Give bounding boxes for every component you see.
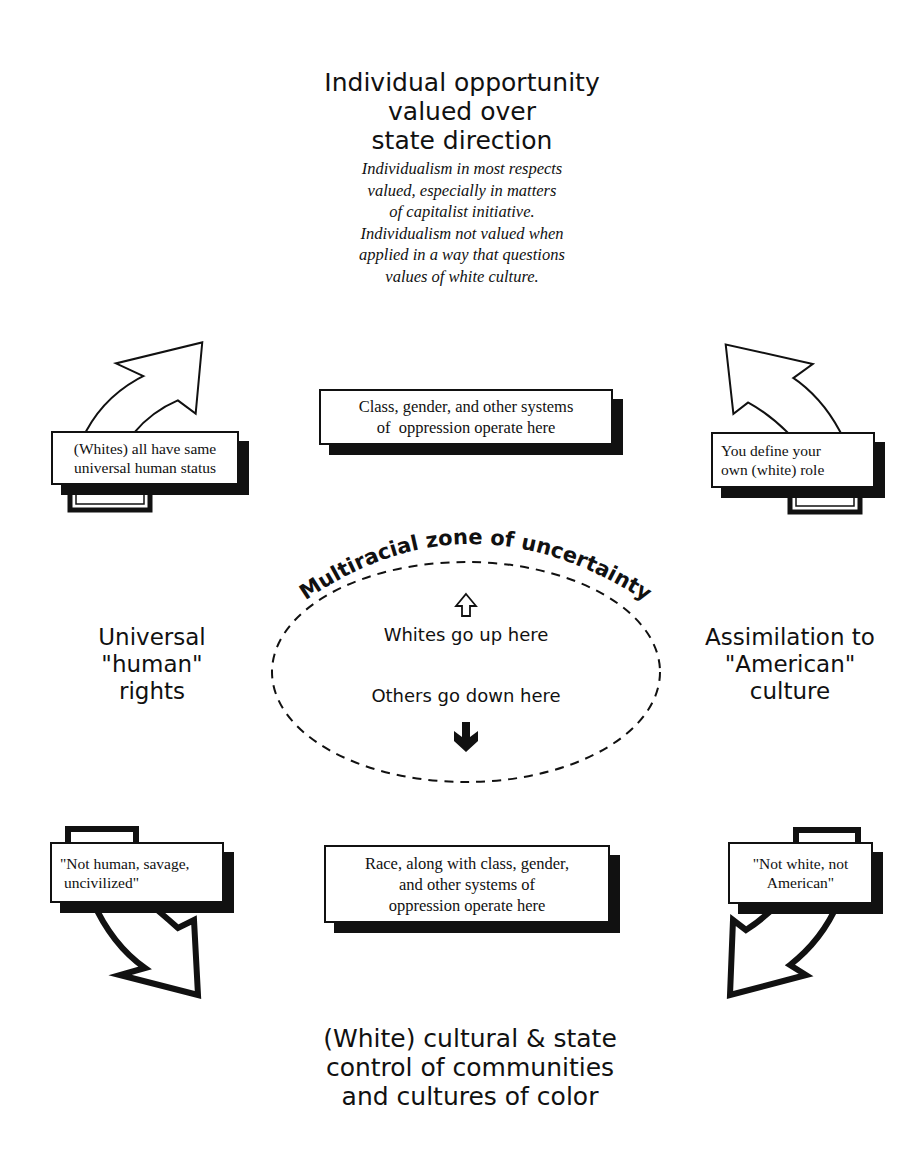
top-title-line: Individual opportunity — [262, 68, 662, 97]
box-line: American" — [753, 873, 848, 892]
box-line: universal human status — [74, 458, 216, 477]
right-label-line: Assimilation to — [680, 624, 900, 651]
zone-down-text: Others go down here — [330, 685, 602, 706]
box-line: Class, gender, and other systems — [359, 396, 574, 417]
top-description-line: valued, especially in matters — [290, 180, 634, 202]
solid-down-arrow-icon — [454, 722, 478, 752]
upper-left-box: (Whites) all have same universal human s… — [51, 431, 239, 485]
top-description-line: Individualism not valued when — [290, 223, 634, 245]
left-label: Universal "human" rights — [62, 624, 242, 705]
box-line: "Not human, savage, — [60, 854, 189, 873]
top-title-line: state direction — [262, 126, 662, 155]
left-label-line: Universal — [62, 624, 242, 651]
box-line: (Whites) all have same — [74, 439, 216, 458]
upper-right-box: You define your own (white) role — [711, 432, 875, 488]
bottom-title: (White) cultural & state control of comm… — [275, 1024, 665, 1111]
top-description-line: of capitalist initiative. — [290, 201, 634, 223]
upper-center-box: Class, gender, and other systems of oppr… — [319, 389, 613, 445]
box-line: and other systems of — [365, 874, 569, 895]
right-label: Assimilation to "American" culture — [680, 624, 900, 705]
bottom-title-line: control of communities — [275, 1053, 665, 1082]
left-label-line: rights — [62, 678, 242, 705]
left-label-line: "human" — [62, 651, 242, 678]
box-line: uncivilized" — [60, 873, 189, 892]
top-description-line: values of white culture. — [290, 266, 634, 288]
right-label-line: "American" — [680, 651, 900, 678]
lower-right-box: "Not white, not American" — [728, 842, 873, 904]
bottom-title-line: (White) cultural & state — [275, 1024, 665, 1053]
box-line: "Not white, not — [753, 854, 848, 873]
top-description-line: Individualism in most respects — [290, 158, 634, 180]
zone-up-text: Whites go up here — [340, 624, 592, 645]
top-description: Individualism in most respects valued, e… — [290, 158, 634, 287]
box-line: own (white) role — [721, 460, 824, 479]
top-title-line: valued over — [262, 97, 662, 126]
lower-left-box: "Not human, savage, uncivilized" — [50, 842, 224, 903]
box-line: You define your — [721, 441, 824, 460]
hollow-up-arrow-icon — [456, 594, 476, 616]
top-description-line: applied in a way that questions — [290, 244, 634, 266]
upper-left-up-arrow-icon — [70, 345, 200, 510]
box-line: oppression operate here — [365, 895, 569, 916]
box-line: of oppression operate here — [359, 417, 574, 438]
lower-center-box: Race, along with class, gender, and othe… — [324, 845, 610, 923]
bottom-title-line: and cultures of color — [275, 1082, 665, 1111]
top-title: Individual opportunity valued over state… — [262, 68, 662, 155]
right-label-line: culture — [680, 678, 900, 705]
box-line: Race, along with class, gender, — [365, 853, 569, 874]
